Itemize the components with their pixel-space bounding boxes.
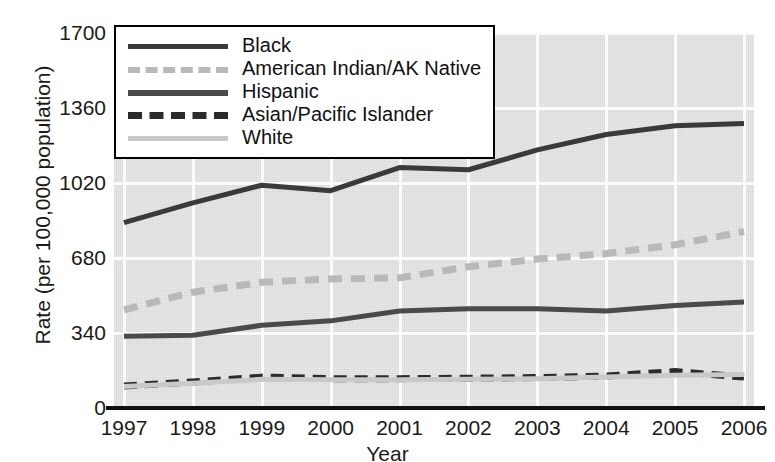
legend-item-hispanic: Hispanic bbox=[128, 80, 481, 103]
y-axis-tick-labels: 0340680102013601700 bbox=[24, 0, 106, 462]
y-tick-label: 1020 bbox=[24, 171, 106, 195]
x-tick-label: 2002 bbox=[445, 416, 492, 440]
legend-swatch-white-icon bbox=[128, 136, 228, 141]
legend-label-american-indian-ak-native: American Indian/AK Native bbox=[242, 57, 481, 80]
legend-label-hispanic: Hispanic bbox=[242, 80, 319, 103]
y-tick-label: 680 bbox=[24, 246, 106, 270]
series-line bbox=[124, 232, 744, 310]
x-tick-label: 2001 bbox=[376, 416, 423, 440]
y-tick-label: 1700 bbox=[24, 21, 106, 45]
legend-swatch-asian-pacific-islander-icon bbox=[128, 112, 228, 119]
x-tick-label: 2003 bbox=[514, 416, 561, 440]
series-line bbox=[124, 374, 744, 386]
y-tick-label: 340 bbox=[24, 321, 106, 345]
x-tick-label: 2000 bbox=[307, 416, 354, 440]
legend-item-black: Black bbox=[128, 34, 481, 57]
x-tick-label: 2006 bbox=[721, 416, 768, 440]
legend-swatch-hispanic-icon bbox=[128, 90, 228, 96]
series-line bbox=[124, 302, 744, 336]
x-tick-label: 2005 bbox=[652, 416, 699, 440]
y-tick-label: 1360 bbox=[24, 96, 106, 120]
legend-label-asian-pacific-islander: Asian/Pacific Islander bbox=[242, 103, 433, 126]
x-tick-label: 2004 bbox=[583, 416, 630, 440]
x-axis-line bbox=[106, 406, 765, 410]
legend-swatch-american-indian-icon bbox=[128, 67, 228, 73]
legend-swatch-black-icon bbox=[128, 44, 228, 49]
legend-item-american-indian-ak-native: American Indian/AK Native bbox=[128, 57, 481, 80]
y-tick-label: 0 bbox=[24, 396, 106, 420]
legend-label-black: Black bbox=[242, 34, 291, 57]
chart-legend: Black American Indian/AK Native Hispanic… bbox=[114, 25, 495, 159]
x-axis-title: Year bbox=[0, 442, 775, 462]
legend-label-white: White bbox=[242, 126, 293, 149]
x-tick-label: 1998 bbox=[170, 416, 217, 440]
legend-item-white: White bbox=[128, 126, 481, 149]
chart-screenshot: Rate (per 100,000 population) 0340680102… bbox=[0, 0, 775, 462]
legend-item-asian-pacific-islander: Asian/Pacific Islander bbox=[128, 103, 481, 126]
x-tick-label: 1999 bbox=[238, 416, 285, 440]
x-tick-label: 1997 bbox=[101, 416, 148, 440]
